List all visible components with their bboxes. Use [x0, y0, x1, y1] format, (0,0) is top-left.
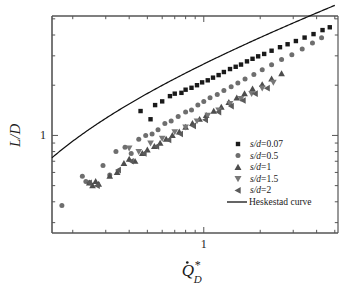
data-point	[183, 88, 187, 92]
data-point	[143, 133, 148, 138]
data-point	[245, 59, 249, 63]
data-point	[279, 57, 284, 62]
data-point	[262, 52, 266, 56]
data-point	[179, 91, 183, 95]
data-point	[148, 117, 152, 121]
y-tick-label-1: 1	[40, 128, 46, 142]
data-point	[302, 35, 306, 39]
data-point	[320, 28, 324, 32]
legend-label: s/d=0.07	[250, 139, 283, 149]
data-point	[311, 32, 315, 36]
data-point	[153, 103, 157, 107]
legend-label: s/d=1.5	[250, 174, 279, 184]
data-point	[189, 108, 194, 113]
legend-label-value: =1	[261, 162, 271, 172]
data-point	[195, 83, 199, 87]
data-point	[208, 95, 213, 100]
legend-label-symbol: s/d	[250, 162, 261, 172]
data-point	[206, 78, 210, 82]
data-point	[228, 67, 232, 71]
data-point	[150, 131, 155, 136]
data-point	[138, 109, 142, 113]
data-point	[173, 91, 177, 95]
x-axis-title-base: Q	[182, 261, 194, 280]
data-point	[310, 41, 315, 46]
x-tick-label-1: 1	[201, 237, 207, 251]
data-point	[289, 52, 294, 57]
data-point	[229, 84, 234, 89]
data-point	[189, 86, 193, 90]
data-point	[250, 57, 254, 61]
legend-marker-circle-icon	[236, 153, 241, 158]
x-axis-title-superscript: *	[195, 258, 201, 272]
data-point	[234, 65, 238, 69]
legend-label-value: =0.5	[261, 151, 278, 161]
data-point	[221, 88, 226, 93]
data-point	[251, 72, 256, 77]
data-point	[156, 127, 161, 132]
data-point	[215, 92, 220, 97]
data-point	[328, 25, 332, 29]
legend-label-value: =2	[261, 185, 271, 195]
legend-label-symbol: s/d	[250, 174, 261, 184]
legend-marker-square-icon	[236, 142, 240, 146]
data-point	[168, 94, 172, 98]
data-point	[160, 99, 164, 103]
data-point	[183, 110, 188, 115]
data-point	[129, 151, 134, 156]
data-point	[278, 45, 282, 49]
data-point	[243, 76, 248, 81]
legend-label-symbol: s/d	[250, 139, 261, 149]
legend-label: s/d=0.5	[250, 151, 279, 161]
data-point	[222, 70, 226, 74]
data-point	[200, 80, 204, 84]
data-point	[195, 103, 200, 108]
data-point	[176, 114, 181, 119]
data-point	[319, 35, 324, 40]
data-point	[59, 203, 64, 208]
y-axis-title: L/D	[7, 124, 23, 149]
data-point	[235, 81, 240, 86]
y-axis-title-text: L/D	[7, 124, 23, 149]
legend-label-value: =1.5	[261, 174, 278, 184]
data-point	[285, 42, 289, 46]
data-point	[256, 54, 260, 58]
data-point	[239, 62, 243, 66]
figure-container: 11L/DQ*Ds/d=0.07s/d=0.5s/d=1s/d=1.5s/d=2…	[0, 0, 354, 289]
data-point	[169, 119, 174, 124]
data-point	[260, 67, 265, 72]
data-point	[162, 121, 167, 126]
legend-label-value: =0.07	[261, 139, 283, 149]
data-point	[269, 62, 274, 67]
data-point	[113, 149, 118, 154]
data-point	[269, 49, 273, 53]
x-axis-title-subscript: D	[193, 273, 202, 285]
data-point	[136, 137, 141, 142]
data-point	[294, 39, 298, 43]
data-point	[300, 46, 305, 51]
data-point	[201, 99, 206, 104]
data-point	[216, 73, 220, 77]
legend-label-symbol: s/d	[250, 151, 261, 161]
q-dot-accent-icon	[186, 261, 189, 264]
chart-svg: 11L/DQ*Ds/d=0.07s/d=0.5s/d=1s/d=1.5s/d=2…	[0, 0, 354, 289]
x-axis-title: Q*D	[182, 258, 202, 285]
legend-label: s/d=1	[250, 162, 271, 172]
data-point	[211, 75, 215, 79]
legend-label-symbol: s/d	[250, 185, 261, 195]
data-point	[80, 174, 85, 179]
legend-label: s/d=2	[250, 185, 271, 195]
data-point	[101, 163, 106, 168]
legend-curve-label: Heskestad curve	[249, 197, 312, 207]
